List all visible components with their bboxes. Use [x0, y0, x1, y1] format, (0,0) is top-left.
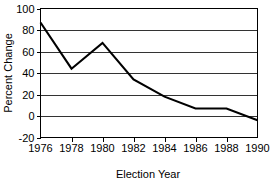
chart-canvas: 19761978198019821984198619881990 1008060…: [0, 0, 273, 184]
x-tick-label-1976: 1976: [28, 142, 52, 154]
x-axis-title: Election Year: [116, 168, 181, 180]
x-tick-label-1988: 1988: [214, 142, 238, 154]
y-tick-label-40: 40: [22, 67, 34, 79]
y-tick-label-60: 60: [22, 46, 34, 58]
x-tick-label-1980: 1980: [90, 142, 114, 154]
y-axis-title: Percent Change: [2, 33, 14, 113]
x-tick-label-1978: 1978: [59, 142, 83, 154]
y-tick-label-80: 80: [22, 24, 34, 36]
x-tick-label-1986: 1986: [183, 142, 207, 154]
y-tick-label-100: 100: [16, 3, 34, 15]
x-tick-label-1982: 1982: [121, 142, 145, 154]
x-tick-label-1990: 1990: [245, 142, 269, 154]
y-tick-label--20: -20: [19, 132, 35, 144]
y-tick-label-20: 20: [22, 89, 34, 101]
y-tick-label-0: 0: [28, 110, 34, 122]
line-chart: 19761978198019821984198619881990 1008060…: [0, 0, 273, 184]
x-tick-label-1984: 1984: [152, 142, 176, 154]
